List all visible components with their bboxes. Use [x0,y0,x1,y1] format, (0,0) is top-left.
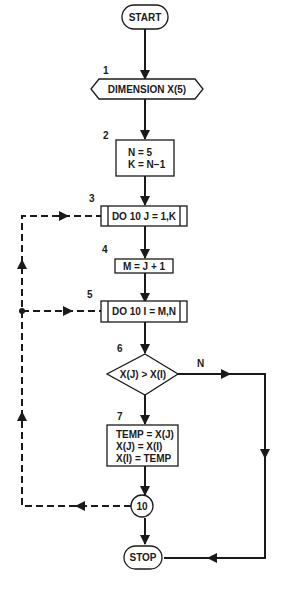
step-number-3: 3 [89,193,95,204]
step-6-decision[interactable]: X(J) > X(I) [107,354,178,395]
step-3-loop[interactable]: DO 10 J = 1,K [101,206,187,226]
step-number-7: 7 [117,411,123,422]
step-6-text: X(J) > X(I) [120,369,166,380]
step-7-line-1: TEMP = X(J) [116,429,174,440]
branch-label-no: N [197,358,204,369]
flowchart-canvas: START 1 DIMENSION X(5) 2 N = 5 K = N−1 3… [0,0,283,596]
step-number-4: 4 [102,244,108,255]
step-4-text: M = J + 1 [123,261,166,272]
step-4-process[interactable]: M = J + 1 [115,259,173,273]
step-number-6: 6 [117,343,123,354]
step-5-loop[interactable]: DO 10 I = M,N [101,301,187,322]
step-3-text: DO 10 J = 1,K [112,211,177,222]
connector-10[interactable]: 10 [131,495,153,517]
step-number-5: 5 [87,289,93,300]
flow-line-no-branch [164,374,265,558]
step-1-preparation[interactable]: DIMENSION X(5) [91,79,203,99]
connector-label: 10 [136,501,148,512]
step-2-line-1: N = 5 [128,147,153,158]
step-7-line-2: X(J) = X(I) [116,441,162,452]
step-5-text: DO 10 I = M,N [112,306,176,317]
step-number-2: 2 [103,130,109,141]
step-1-text: DIMENSION X(5) [108,84,186,95]
start-label: START [129,12,162,23]
step-7-line-3: X(I) = TEMP [116,453,172,464]
junction-dot [19,308,25,314]
step-number-1: 1 [103,65,109,76]
step-2-line-2: K = N−1 [128,159,166,170]
step-7-process[interactable]: TEMP = X(J) X(J) = X(I) X(I) = TEMP [107,425,178,466]
start-terminal[interactable]: START [122,5,168,29]
step-2-process[interactable]: N = 5 K = N−1 [116,140,174,176]
stop-label: STOP [129,552,156,563]
stop-terminal[interactable]: STOP [124,546,162,569]
